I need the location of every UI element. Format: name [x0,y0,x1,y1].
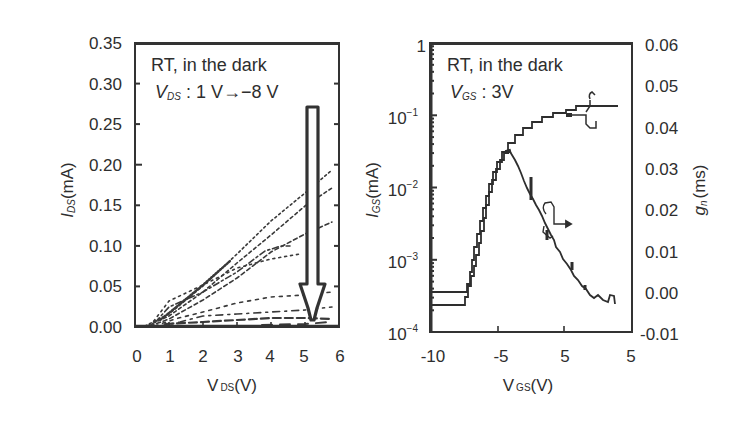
left-ytick: 0.20 [89,156,122,175]
right-y2-axis-label: gn(ms) [690,164,709,215]
right-left-y-tick-labels: 1 10−1 10−2 10−3 10−4 [388,37,426,344]
right-xtick: 5 [560,347,569,366]
right-arrow-icon [566,221,571,227]
y2tick: 0.03 [645,160,678,179]
left-xtick: 5 [299,347,308,366]
left-ytick: 0.15 [89,196,122,215]
right-y2-tick-labels: 0.06 0.05 0.04 0.03 0.02 0.01 0.00 -0.01 [640,36,679,344]
right-xtick: 5 [626,347,635,366]
left-xtick: 2 [198,347,207,366]
y2tick: 0.00 [645,284,678,303]
left-curve-5 [152,246,290,326]
gn-curve [505,150,615,304]
left-y-tick-labels: 0.00 0.05 0.10 0.15 0.20 0.25 0.30 0.35 [89,34,122,337]
left-ytick: 0.10 [89,237,122,256]
left-x-tick-labels: 0 1 2 3 4 5 6 [132,347,344,366]
log-ytick: 10−4 [388,323,419,344]
log-ytick: 10−1 [388,107,419,128]
left-xtick: 0 [132,347,141,366]
left-curve-1 [145,170,332,326]
y2tick: -0.01 [640,325,679,344]
left-y-axis-label: IDS(mA) [58,162,77,217]
left-xtick: 1 [165,347,174,366]
left-panel: 0.00 0.05 0.10 0.15 0.20 0.25 0.30 0.35 … [58,34,345,395]
right-x-tick-labels: -10 -5 5 5 [421,347,636,366]
left-annotation-title: RT, in the dark [151,55,268,75]
left-ytick: 0.05 [89,277,122,296]
left-annotation-sweep: VDS : 1 V→−8 V [155,82,278,102]
right-xtick: -5 [493,347,508,366]
right-panel: 1 10−1 10−2 10−3 10−4 0.06 0.05 0.04 0.0… [363,36,709,395]
igs-curve-upper [430,106,618,292]
y2tick: 0.02 [645,201,678,220]
right-annotation-bias: VGS : 3V [450,82,514,102]
y2tick: 0.01 [645,243,678,262]
right-xtick: -10 [421,347,446,366]
right-y-axis-label: IGS(mA) [363,162,382,218]
right-annotation-title: RT, in the dark [447,55,564,75]
log-ytick: 1 [417,37,426,56]
left-xtick: 6 [335,347,344,366]
figure: 0.00 0.05 0.10 0.15 0.20 0.25 0.30 0.35 … [0,0,751,431]
y2tick: 0.06 [645,36,678,55]
y2tick: 0.04 [645,119,678,138]
right-curves [430,92,618,305]
left-curve-2 [147,188,332,326]
log-ytick: 10−2 [388,179,419,200]
left-ytick: 0.30 [89,75,122,94]
right-x-axis-label: VGS(V) [503,376,553,395]
sweep-direction-arrow-icon [300,107,325,320]
left-x-axis-label: VDS(V) [207,376,257,395]
log-ytick: 10−3 [388,251,419,272]
left-xtick: 4 [265,347,274,366]
left-ytick: 0.25 [89,115,122,134]
left-ytick: 0.00 [89,318,122,337]
left-xtick: 3 [233,347,242,366]
y2tick: 0.05 [645,77,678,96]
left-curve-tail-dash [262,322,330,325]
left-curves [145,170,332,326]
left-ytick: 0.35 [89,34,122,53]
